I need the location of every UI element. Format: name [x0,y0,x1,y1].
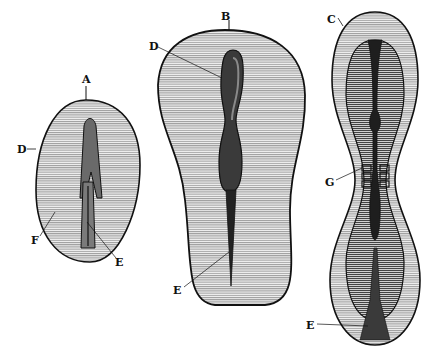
label-a-f: F [31,234,39,247]
label-a-d: D [17,143,27,156]
label-c-g: G [325,176,334,189]
embryo-diagram: A D F E B D E C G E [0,0,437,356]
label-b-e: E [173,284,181,297]
label-b-d: D [149,40,159,53]
label-c-e: E [306,319,314,332]
panel-a: A D F E [17,73,140,269]
label-b: B [221,10,230,23]
label-c: C [327,13,336,26]
label-a: A [81,73,91,86]
panel-b: B D E [149,10,305,305]
panel-c: C G E [306,12,420,345]
label-a-e: E [115,256,123,269]
